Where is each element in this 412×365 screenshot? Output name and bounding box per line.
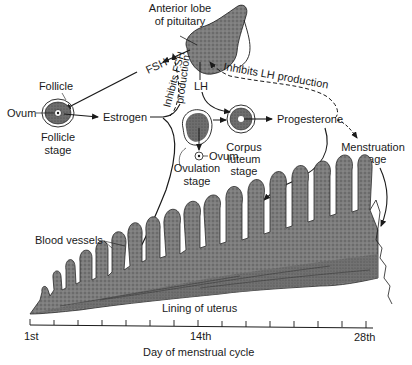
- pituitary-label-1: Anterior lobe: [149, 2, 211, 14]
- follicle: Follicle Ovum Follicle stage: [7, 80, 75, 156]
- follicle-label: Follicle: [39, 80, 73, 92]
- ovum-label: Ovum: [7, 107, 36, 119]
- ovulation-stage-label-2: stage: [184, 175, 211, 187]
- follicle-stage-label-2: stage: [45, 144, 72, 156]
- corpus-luteum-stage: Corpus luteum stage: [226, 105, 272, 177]
- progesterone-label: Progesterone: [277, 113, 343, 125]
- axis-title: Day of menstrual cycle: [143, 346, 254, 358]
- axis-tick-28th: 28th: [354, 331, 375, 343]
- inhibits-lh-feedback: Inhibits LH production: [210, 60, 357, 138]
- axis-tick-14th: 14th: [190, 330, 211, 342]
- lh-label: LH: [194, 80, 208, 92]
- day-axis: 1st 14th 28th Day of menstrual cycle: [24, 319, 375, 358]
- corpus-stage-label-1: Corpus: [226, 141, 262, 153]
- pituitary-label-2: of pituitary: [155, 15, 206, 27]
- corpus-stage-label-3: stage: [231, 165, 258, 177]
- menstrual-cycle-diagram: Anterior lobe of pituitary FSH LH Follic…: [0, 0, 412, 365]
- ovulation-stage-label-1: Ovulation: [174, 162, 220, 174]
- estrogen-label: Estrogen: [103, 111, 147, 123]
- blood-vessels-label: Blood vessels: [35, 234, 103, 246]
- lining-of-uterus-label: Lining of uterus: [162, 302, 238, 314]
- axis-tick-1st: 1st: [24, 330, 39, 342]
- inhibits-lh-label: Inhibits LH production: [223, 60, 330, 90]
- fsh-label: FSH: [144, 56, 169, 76]
- follicle-stage-label-1: Follicle: [41, 131, 75, 143]
- corpus-stage-label-2: luteum: [227, 153, 260, 165]
- menstruation-stage-label-1: Menstruation: [341, 141, 405, 153]
